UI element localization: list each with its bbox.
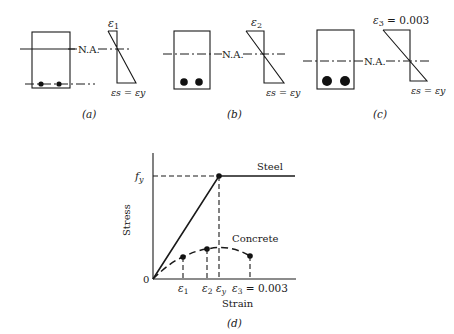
x-tick-epsilon-3: ε3 = 0.003 (232, 282, 288, 296)
steel-curve (153, 176, 295, 279)
rebar-a-2 (56, 81, 61, 86)
strain-bottom-label-a: εs = εy (111, 87, 146, 98)
rebar-b-1 (180, 78, 188, 86)
strain-bottom-label-c: εs = εy (411, 85, 446, 96)
caption-b: (b) (227, 108, 242, 120)
rebar-c-1 (322, 76, 332, 86)
caption-c: (c) (373, 108, 387, 120)
rebar-b-2 (195, 78, 203, 86)
steel-label: Steel (257, 161, 283, 172)
x-tick-epsilon-1: ε1 (178, 282, 188, 296)
beam-section-a (32, 32, 70, 88)
origin-label: 0 (143, 274, 149, 285)
concrete-label: Concrete (232, 233, 278, 244)
reinforced-concrete-strain-diagram: N.A. ε1 εs = εy (a) N.A. ε2 εs = εy (b) … (0, 0, 454, 334)
strain-top-label-a: ε1 (108, 17, 119, 31)
panel-c: N.A. ε3 = 0.003 εs = εy (c) (303, 14, 446, 120)
strain-profile-c (383, 30, 427, 81)
strain-top-label-b: ε2 (251, 16, 262, 30)
panel-b: N.A. ε2 εs = εy (b) (163, 16, 301, 120)
panel-d-stress-strain-chart: 0 fy Steel Concrete ε1 ε2 εy ε3 = 0.003 … (121, 153, 296, 329)
beam-section-b (174, 31, 210, 89)
rebar-c-2 (340, 76, 350, 86)
rebar-a-1 (38, 81, 43, 86)
y-axis-title: Stress (121, 204, 132, 236)
strain-bottom-label-b: εs = εy (266, 87, 301, 98)
neutral-axis-label-b: N.A. (222, 49, 244, 60)
fy-label: fy (134, 170, 144, 184)
strain-profile-a (108, 31, 136, 83)
caption-a: (a) (82, 108, 96, 120)
caption-d: (d) (227, 317, 242, 329)
concrete-curve (153, 248, 250, 279)
x-axis-title: Strain (222, 298, 254, 309)
panel-a: N.A. ε1 εs = εy (a) (20, 17, 146, 120)
x-tick-epsilon-2: ε2 (202, 282, 213, 296)
x-tick-epsilon-y: εy (216, 282, 227, 296)
neutral-axis-label-c: N.A. (364, 56, 386, 67)
strain-profile-b (246, 31, 284, 83)
strain-top-label-c: ε3 = 0.003 (373, 14, 429, 28)
neutral-axis-label-a: N.A. (78, 44, 100, 55)
